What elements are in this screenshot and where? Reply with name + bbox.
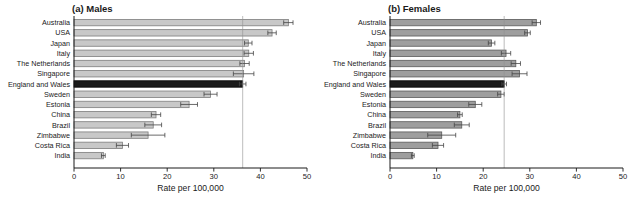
x-axis-title: Rate per 100,000 (473, 183, 540, 193)
bar-estonia (74, 101, 189, 107)
bar-australia (74, 19, 288, 25)
bar-japan (390, 40, 492, 46)
females-chart: (b) FemalesAustraliaUSAJapanItalyThe Net… (316, 0, 631, 206)
bar-india (390, 152, 413, 158)
x-tick-label-30: 30 (525, 172, 533, 181)
bar-the-netherlands (390, 60, 516, 66)
x-tick-label-20: 20 (163, 172, 171, 181)
dual-bar-chart-figure: (a) MalesAustraliaUSAJapanItalyThe Nethe… (0, 0, 631, 206)
bar-england-and-wales (74, 81, 243, 87)
category-label-england-and-wales: England and Wales (323, 80, 385, 89)
bar-italy (390, 50, 506, 56)
category-label-costa-rica: Costa Rica (350, 141, 385, 150)
category-label-australia: Australia (42, 18, 70, 27)
bar-costa-rica (74, 142, 122, 148)
category-label-brazil: Brazil (52, 121, 70, 130)
category-label-japan: Japan (50, 39, 70, 48)
bar-india (74, 152, 103, 158)
x-tick-label-20: 20 (478, 172, 486, 181)
category-label-singapore: Singapore (37, 69, 70, 78)
category-label-estonia: Estonia (46, 100, 70, 109)
bar-china (390, 111, 460, 117)
x-axis-title: Rate per 100,000 (157, 183, 224, 193)
bar-the-netherlands (74, 60, 245, 66)
bar-singapore (390, 71, 520, 77)
category-label-sweden: Sweden (44, 90, 70, 99)
category-label-sweden: Sweden (360, 90, 386, 99)
bar-australia (390, 19, 536, 25)
females-panel: (b) FemalesAustraliaUSAJapanItalyThe Net… (316, 0, 631, 206)
chart-title: (b) Females (388, 3, 441, 14)
males-panel: (a) MalesAustraliaUSAJapanItalyThe Nethe… (0, 0, 316, 206)
category-label-india: India (54, 151, 70, 160)
x-tick-label-10: 10 (432, 172, 440, 181)
bar-china (74, 111, 156, 117)
category-label-zimbabwe: Zimbabwe (37, 131, 70, 140)
x-tick-label-40: 40 (256, 172, 264, 181)
category-label-costa-rica: Costa Rica (35, 141, 70, 150)
x-tick-label-0: 0 (72, 172, 76, 181)
category-label-zimbabwe: Zimbabwe (352, 131, 385, 140)
bar-brazil (390, 122, 462, 128)
x-tick-label-0: 0 (387, 172, 391, 181)
x-tick-label-50: 50 (618, 172, 626, 181)
category-label-australia: Australia (358, 18, 386, 27)
category-label-singapore: Singapore (353, 69, 386, 78)
category-label-japan: Japan (366, 39, 386, 48)
bar-italy (74, 50, 249, 56)
category-label-england-and-wales: England and Wales (8, 80, 70, 89)
category-label-italy: Italy (372, 49, 386, 58)
bar-usa (390, 30, 527, 36)
category-label-usa: USA (371, 28, 386, 37)
bar-japan (74, 40, 248, 46)
bar-sweden (74, 91, 211, 97)
x-tick-label-30: 30 (210, 172, 218, 181)
category-label-the-netherlands: The Netherlands (17, 59, 71, 68)
chart-title: (a) Males (72, 3, 113, 14)
bar-estonia (390, 101, 475, 107)
bar-costa-rica (390, 142, 438, 148)
x-tick-label-40: 40 (572, 172, 580, 181)
bar-brazil (74, 122, 153, 128)
x-tick-label-10: 10 (116, 172, 124, 181)
bar-sweden (390, 91, 501, 97)
category-label-china: China (51, 110, 70, 119)
category-label-brazil: Brazil (368, 121, 386, 130)
category-label-china: China (367, 110, 386, 119)
category-label-italy: Italy (57, 49, 71, 58)
category-label-usa: USA (55, 28, 70, 37)
category-label-estonia: Estonia (362, 100, 386, 109)
category-label-the-netherlands: The Netherlands (332, 59, 386, 68)
bar-england-and-wales (390, 81, 504, 87)
males-chart: (a) MalesAustraliaUSAJapanItalyThe Nethe… (0, 0, 315, 206)
category-label-india: India (370, 151, 386, 160)
x-tick-label-50: 50 (303, 172, 311, 181)
bar-singapore (74, 71, 244, 77)
